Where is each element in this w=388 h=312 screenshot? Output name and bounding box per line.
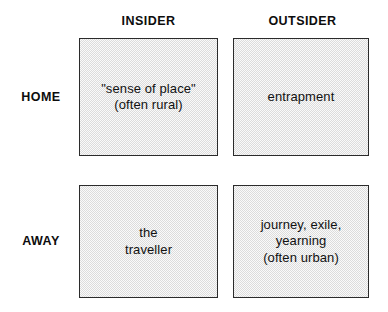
column-header-outsider: OUTSIDER <box>235 13 370 29</box>
row-label-home: HOME <box>10 89 72 105</box>
matrix-cell-home-outsider: entrapment <box>233 38 369 156</box>
matrix-figure: INSIDER OUTSIDER HOME AWAY "sense of pla… <box>0 0 388 312</box>
matrix-cell-away-insider: the traveller <box>79 185 218 298</box>
matrix-cell-home-insider: "sense of place" (often rural) <box>79 38 218 156</box>
matrix-cell-text: the traveller <box>121 225 176 258</box>
matrix-cell-text: "sense of place" (often rural) <box>97 81 200 114</box>
column-header-insider: INSIDER <box>79 13 218 29</box>
matrix-cell-away-outsider: journey, exile, yearning (often urban) <box>233 185 369 298</box>
matrix-cell-text: entrapment <box>264 89 339 106</box>
matrix-cell-text: journey, exile, yearning (often urban) <box>257 217 346 267</box>
row-label-away: AWAY <box>10 233 72 249</box>
